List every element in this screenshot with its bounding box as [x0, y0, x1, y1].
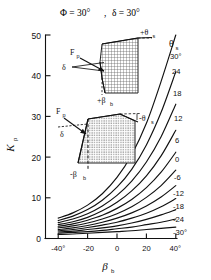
- upper-fp-sub: p: [77, 53, 80, 59]
- legend-theta-sub: s: [176, 45, 179, 51]
- y-tick-20: 20: [32, 153, 42, 163]
- upper-beta-text: +β: [97, 96, 106, 105]
- x-tick-neg40: -40°: [51, 244, 65, 253]
- curve-label-30: 30°: [170, 52, 181, 61]
- y-tick-10: 10: [32, 193, 42, 203]
- curve-label-neg30: -30°: [173, 228, 187, 237]
- lower-fp-text: F: [56, 107, 61, 116]
- y-tick-40: 40: [32, 71, 42, 81]
- figure-root: Φ = 30° , δ = 30° 50 40 30 20 10 0 -40° …: [0, 0, 211, 280]
- lower-theta-sub: s: [151, 119, 154, 125]
- upper-theta-sub: s: [153, 33, 156, 39]
- lower-fp-sub: p: [63, 112, 66, 118]
- x-tick-20: 20: [142, 244, 150, 253]
- lower-theta-text: -θ: [139, 114, 146, 123]
- x-axis-title-main: β: [101, 260, 108, 272]
- x-tick-neg20: -20: [83, 244, 94, 253]
- x-tick-40: 40°: [169, 244, 180, 253]
- curve-label-neg12: -12: [173, 189, 184, 198]
- legend-theta-symbol: θ: [169, 39, 174, 49]
- lower-delta-label: δ: [60, 130, 64, 139]
- curve-label-24: 24: [172, 67, 180, 76]
- y-tick-30: 30: [32, 112, 42, 122]
- upper-beta-sub: b: [110, 101, 113, 107]
- y-tick-50: 50: [32, 31, 42, 41]
- curve-label-neg18: -18: [173, 202, 184, 211]
- upper-delta-label: δ: [62, 63, 66, 72]
- passive-earth-pressure-chart: Φ = 30° , δ = 30° 50 40 30 20 10 0 -40° …: [0, 0, 211, 280]
- lower-beta-text: -β: [70, 170, 77, 179]
- x-tick-0: 0: [115, 244, 119, 253]
- title-delta: δ = 30°: [112, 8, 140, 18]
- curve-label-18: 18: [173, 89, 181, 98]
- upper-theta-text: +θ: [140, 28, 149, 37]
- title-separator: ,: [104, 8, 106, 18]
- curve-label-12: 12: [174, 114, 182, 123]
- y-tick-0: 0: [36, 234, 41, 244]
- lower-beta-sub: b: [83, 175, 86, 181]
- curve-label-0: 0: [175, 155, 179, 164]
- y-axis-title-main: K: [4, 144, 16, 153]
- upper-wall-fill: [100, 38, 138, 93]
- title-phi: Φ = 30°: [60, 8, 91, 18]
- curve-label-6: 6: [175, 136, 179, 145]
- curve-label-neg6: -6: [174, 173, 181, 182]
- curve-label-neg24: -24: [173, 215, 184, 224]
- upper-fp-text: F: [70, 48, 75, 57]
